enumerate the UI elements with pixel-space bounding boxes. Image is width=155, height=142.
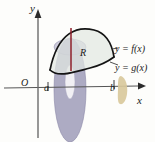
tick-label-a: a: [44, 83, 49, 93]
tick-label-b: b: [110, 83, 115, 93]
y-axis-label: y: [30, 3, 35, 14]
y-axis-arrowhead: [35, 9, 42, 18]
shell-method-figure: y x O a b R y = f(x) y = g(x): [0, 0, 155, 142]
tan-marker-shape: [118, 76, 127, 104]
x-axis-label: x: [137, 95, 142, 106]
curve-label-f: y = f(x): [115, 44, 145, 54]
tan-marker-at-b: [118, 76, 127, 104]
region-label-R: R: [80, 48, 86, 58]
x-axis-arrowhead: [138, 83, 146, 90]
curve-label-g: y = g(x): [115, 63, 147, 73]
origin-label: O: [21, 78, 28, 88]
